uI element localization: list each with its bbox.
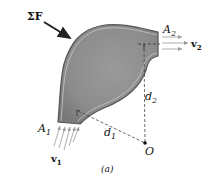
outlet-velocity-label: v2 [190,38,202,52]
d2-label: d2 [145,90,157,105]
outlet-flow-arrows-icon [162,37,188,49]
control-volume-diagram: ΣF A2 v2 A1 v1 d1 d2 O (a) [0,0,213,179]
inlet-flow-arrows-icon [54,126,79,150]
inlet-velocity-label: v1 [50,153,62,167]
figure-caption: (a) [101,164,114,174]
point-o-label: O [145,145,154,158]
inlet-area-label: A1 [37,122,51,137]
outlet-area-label: A2 [162,23,176,38]
pipe-body [58,25,158,124]
force-arrow-icon [44,22,70,38]
force-label: ΣF [27,10,43,23]
